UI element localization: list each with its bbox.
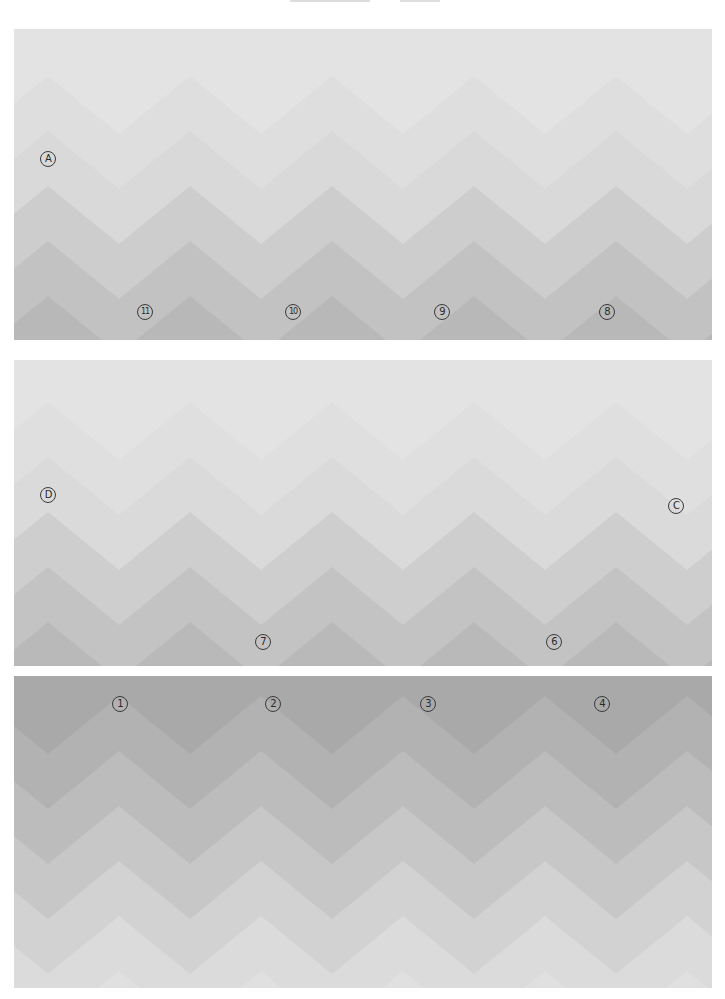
circled-label-a: A bbox=[40, 151, 56, 167]
circled-label-10: 10 bbox=[285, 304, 301, 320]
circled-label-11: 11 bbox=[137, 304, 153, 320]
top-edge-mark bbox=[400, 0, 440, 2]
circled-label-1: 1 bbox=[112, 696, 128, 712]
chevron-pattern bbox=[14, 360, 712, 666]
circled-label-6: 6 bbox=[546, 634, 562, 650]
top-edge-mark bbox=[290, 0, 370, 2]
chevron-panel-top: A111098 bbox=[14, 29, 712, 340]
circled-label-d: D bbox=[40, 487, 56, 503]
chevron-panel-bottom: 1234 bbox=[14, 676, 712, 988]
circled-label-4: 4 bbox=[594, 696, 610, 712]
chevron-pattern bbox=[14, 676, 712, 988]
circled-label-2: 2 bbox=[265, 696, 281, 712]
chevron-pattern bbox=[14, 29, 712, 340]
circled-label-3: 3 bbox=[420, 696, 436, 712]
circled-label-7: 7 bbox=[255, 634, 271, 650]
circled-label-c: C bbox=[668, 498, 684, 514]
chevron-panel-middle: DC76 bbox=[14, 360, 712, 666]
circled-label-8: 8 bbox=[599, 304, 615, 320]
circled-label-9: 9 bbox=[434, 304, 450, 320]
